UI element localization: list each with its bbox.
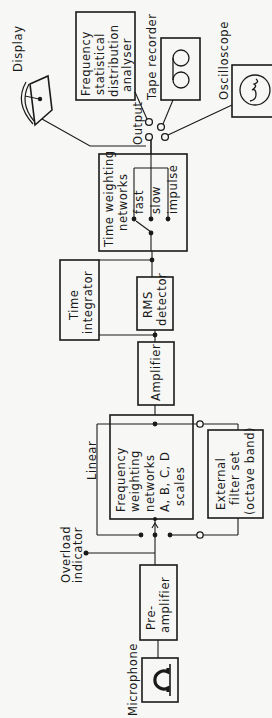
- impulse-label: impulse: [166, 165, 180, 214]
- microphone-label: Microphone: [126, 643, 140, 716]
- ef-label-3: (octave band): [243, 427, 257, 515]
- tape-recorder-label: Tape recorder: [145, 13, 159, 101]
- tw-label-2: networks: [116, 174, 130, 232]
- fsa-label-2: statistical: [93, 33, 107, 95]
- block-diagram: Microphone Pre- amplifier Overload indic…: [0, 0, 272, 718]
- output-jack-scope[interactable]: [162, 134, 169, 141]
- oscilloscope-label: Oscilloscope: [217, 21, 231, 100]
- preamplifier-block: Pre- amplifier: [140, 565, 177, 640]
- tape-reels-icon: [173, 50, 189, 88]
- rms-detector-block: RMS detector: [137, 273, 173, 330]
- ef-label-1: External: [214, 457, 228, 510]
- rms-label-2: detector: [155, 273, 169, 326]
- impulse-contact[interactable]: [166, 217, 171, 222]
- oscilloscope-waveform-icon: [240, 75, 270, 105]
- fast-label: fast: [132, 190, 146, 214]
- fsa-label-4: analyser: [120, 38, 134, 92]
- linear-switch-contact: [139, 533, 144, 538]
- output-jack-tape[interactable]: [158, 124, 165, 131]
- display-label: Display: [11, 25, 25, 72]
- output-label: Output: [131, 101, 145, 145]
- frequency-analyser-block: Frequency statistical distribution analy…: [76, 12, 135, 100]
- external-filter-output-jack[interactable]: [197, 421, 203, 427]
- display-meter: Display: [11, 25, 52, 125]
- microphone-icon: [155, 664, 170, 696]
- tape-recorder-block: Tape recorder: [145, 13, 200, 101]
- slow-contact[interactable]: [149, 217, 154, 222]
- oscilloscope-block: Oscilloscope: [217, 21, 272, 117]
- preamplifier-label-2: amplifier: [158, 577, 172, 633]
- amplifier-label: Amplifier: [149, 344, 163, 401]
- fw-label-4: A, B, C, D: [158, 451, 172, 512]
- ti-label-1: Time: [67, 289, 81, 321]
- output-jack-analyser[interactable]: [146, 119, 153, 126]
- fsa-label-3: distribution: [107, 24, 121, 97]
- preamplifier-label-1: Pre-: [144, 605, 158, 630]
- frequency-weighting-block: Frequency weighting networks A, B, C, D …: [110, 415, 193, 519]
- external-filter-input-jack[interactable]: [197, 532, 203, 538]
- filter-switch-contact: [168, 533, 173, 538]
- fw-label-5: scales: [173, 467, 187, 506]
- fw-label-2: weighting: [128, 450, 142, 512]
- linear-label: Linear: [85, 441, 99, 480]
- fsa-label-1: Frequency: [79, 31, 93, 96]
- overload-label-2: indicator: [71, 527, 85, 583]
- slow-label: slow: [149, 186, 163, 214]
- output-jack-display[interactable]: [146, 134, 153, 141]
- rms-label-1: RMS: [141, 291, 155, 318]
- fast-contact[interactable]: [132, 217, 137, 222]
- microphone-block: Microphone: [126, 643, 178, 716]
- ef-label-2: filter set: [228, 451, 242, 505]
- external-filter-block: External filter set (octave band): [208, 427, 263, 518]
- time-weighting-block: Time weighting networks fast slow impuls…: [99, 140, 187, 251]
- summing-node: [153, 422, 158, 427]
- fw-label-1: Frequency: [114, 447, 128, 512]
- time-integrator-block: Time integrator: [60, 260, 99, 340]
- fw-label-3: networks: [143, 455, 157, 513]
- meter-needle-pivot: [38, 97, 42, 101]
- amplifier-block: Amplifier: [138, 342, 174, 405]
- tw-label-1: Time weighting: [102, 150, 116, 248]
- ti-label-2: integrator: [81, 271, 95, 334]
